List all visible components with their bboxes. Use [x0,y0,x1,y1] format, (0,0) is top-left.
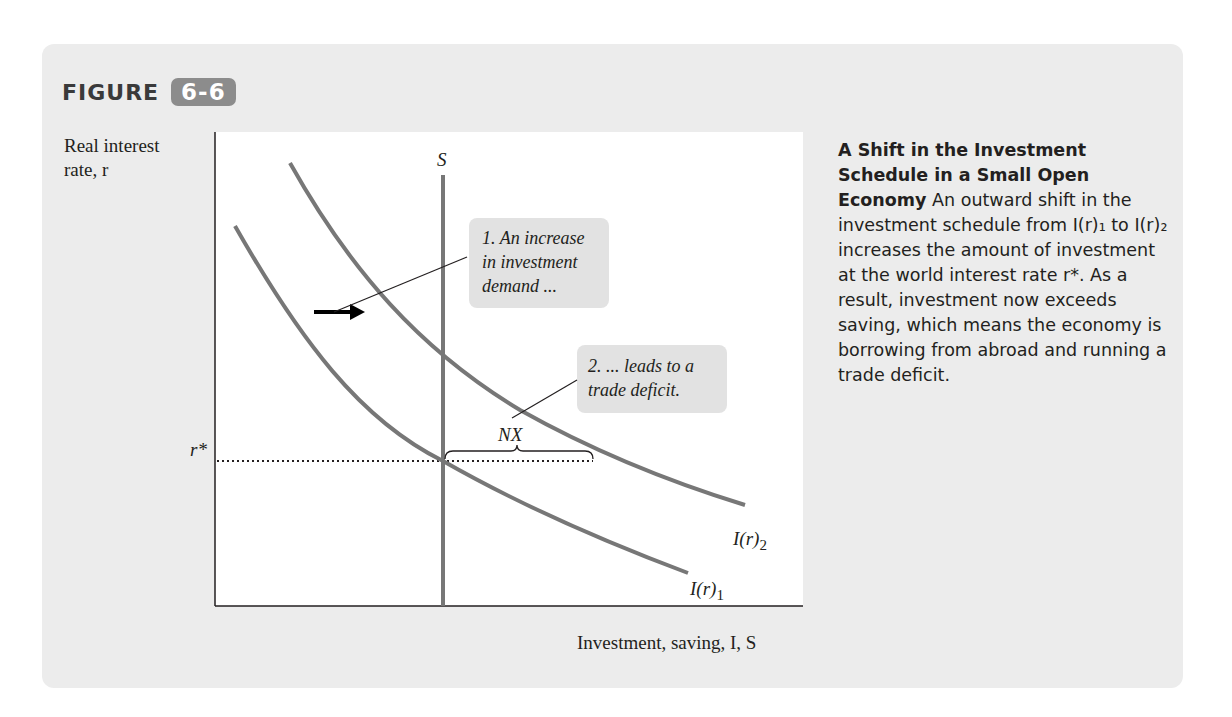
caption-body: An outward shift in the investment sched… [838,190,1167,385]
r-star-tick: r* [190,439,207,460]
investment-curve-2-label: I(r)2 [732,528,767,553]
nx-brace [445,445,593,459]
annotation-2-line2: trade deficit. [588,380,680,400]
annotation-1-line1: 1. An increase [482,228,584,248]
shift-arrow-head [350,304,365,320]
figure-caption: A Shift in the Investment Schedule in a … [838,138,1168,388]
annotation-1-line2: in investment [482,252,578,272]
x-axis-label: Investment, saving, I, S [577,632,756,654]
leader-line-1 [334,257,467,312]
leader-line-2 [512,380,577,418]
investment-curve-1-label: I(r)1 [689,578,724,603]
annotation-2-line1: 2. ... leads to a [588,356,694,376]
annotation-1-line3: demand ... [482,276,557,296]
nx-label: NX [497,424,524,445]
saving-label: S [437,149,447,170]
investment-curve-2 [290,163,745,505]
